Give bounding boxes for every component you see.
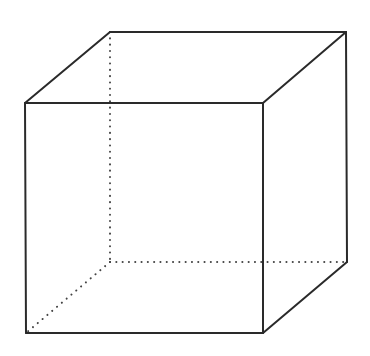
- cube-diagram: [0, 0, 370, 356]
- visible-edges-group: [25, 32, 347, 333]
- hidden-edges-group: [26, 32, 347, 333]
- cube-wireframe: [0, 0, 370, 356]
- visible-edge-back-top-right-to-front-top-right: [263, 32, 346, 103]
- hidden-edge-back-bottom-left-to-front-bottom-left: [26, 262, 110, 333]
- visible-edge-back-bottom-right-to-front-bottom-right: [263, 262, 347, 333]
- visible-edge-back-top-right-to-back-bottom-right: [346, 32, 347, 262]
- visible-edge-front-bottom-left-to-front-top-left: [25, 103, 26, 333]
- visible-edge-front-top-left-to-back-top-left: [25, 32, 110, 103]
